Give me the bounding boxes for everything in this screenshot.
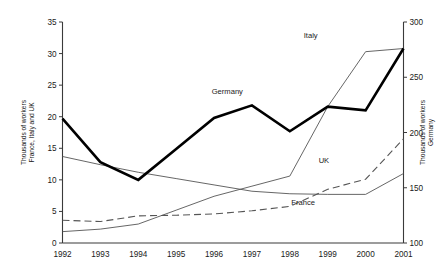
left-axis-tick-label: 25 [47, 81, 57, 90]
series-label-italy: Italy [304, 31, 318, 40]
right-axis-title-line2: Germany [427, 118, 435, 146]
x-axis-tick-label: 1995 [167, 250, 186, 259]
left-axis-tick-label: 0 [52, 239, 57, 248]
right-axis-tick-label: 300 [410, 18, 424, 27]
right-axis-tick-label: 250 [410, 73, 424, 82]
left-axis-tick-label: 15 [47, 144, 57, 153]
x-axis-tick-label: 1998 [281, 250, 300, 259]
series-label-uk: UK [319, 156, 330, 165]
right-axis-tick-label: 150 [410, 184, 424, 193]
x-axis-tick-label: 1997 [243, 250, 262, 259]
x-axis-tick-label: 1996 [205, 250, 224, 259]
x-axis-tick-label: 1993 [91, 250, 110, 259]
x-axis-tick-label: 1994 [129, 250, 148, 259]
left-axis-title-line1: Thousands of workers [20, 99, 27, 165]
left-axis-title-line2: France, Italy and UK [28, 102, 36, 163]
left-axis-tick-label: 5 [52, 207, 57, 216]
series-label-germany: Germany [212, 87, 243, 96]
series-label-france: France [291, 198, 315, 207]
x-axis-tick-label: 2000 [357, 250, 376, 259]
left-axis-tick-label: 20 [47, 113, 57, 122]
left-axis-tick-label: 10 [47, 176, 57, 185]
x-axis-tick-label: 1999 [319, 250, 338, 259]
x-axis-tick-label: 2001 [394, 250, 413, 259]
left-axis-tick-label: 35 [47, 18, 57, 27]
chart-background [0, 0, 441, 273]
chart-canvas: 05101520253035 100150200250300 199219931… [0, 0, 441, 273]
right-axis-title-line1: Thousands of workers [419, 99, 426, 165]
right-axis-tick-label: 100 [410, 239, 424, 248]
x-axis-tick-label: 1992 [53, 250, 72, 259]
dual-axis-line-chart: 05101520253035 100150200250300 199219931… [0, 0, 441, 273]
left-axis-tick-label: 30 [47, 50, 57, 59]
